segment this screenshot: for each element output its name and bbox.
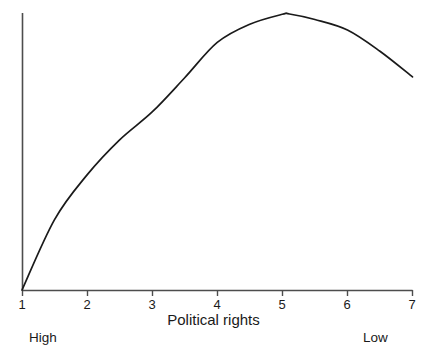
data-curve-series-0 [22,13,413,290]
x-tick-label-4: 4 [206,297,228,312]
x-axis-title-text: Political rights [167,311,260,329]
x-axis-anchor-low: Low [363,330,388,346]
x-tick-label-2: 2 [76,297,98,312]
x-tick-label-7: 7 [401,297,423,312]
x-tick-label-3: 3 [141,297,163,312]
chart-figure: 1 2 3 4 5 6 7 Political rights High Low [0,0,429,356]
x-tick-label-1: 1 [11,297,33,312]
x-tick-label-6: 6 [336,297,358,312]
x-tick-label-5: 5 [271,297,293,312]
x-axis-anchor-high: High [29,330,57,346]
x-axis-title: Political rights [0,311,429,329]
